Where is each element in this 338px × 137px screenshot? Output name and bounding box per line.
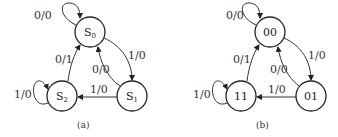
label-00-self: 0/0 [226,9,244,22]
label-s1-s2: 1/0 [90,83,108,96]
svg-text:00: 00 [263,26,277,39]
edge-s2-self [34,81,48,104]
label-s1-s0: 0/0 [92,63,110,76]
label-11-00: 0/1 [233,53,251,66]
state-s0: S0 [75,17,105,47]
caption-a: (a) [77,120,89,130]
state-11: 11 [226,81,256,111]
label-11-self: 1/0 [193,88,211,101]
diagram-b: 0/0 1/0 0/0 1/0 0/1 1/0 00 01 11 (b) [193,3,326,130]
edge-s0-self [62,3,80,25]
svg-text:01: 01 [304,90,318,103]
edge-11-self [213,81,227,104]
state-00: 00 [255,17,285,47]
state-01: 01 [296,81,326,111]
diagram-a: 0/0 1/0 0/0 1/0 0/1 1/0 S0 S1 S2 (a) [14,3,147,130]
svg-text:11: 11 [234,90,248,103]
label-s2-s0: 0/1 [55,53,73,66]
label-00-01: 1/0 [308,49,326,62]
label-01-00: 0/0 [270,63,288,76]
caption-b: (b) [256,120,269,130]
state-s2: S2 [47,81,77,111]
label-s0-s1: 1/0 [128,49,146,62]
label-s2-self: 1/0 [14,88,32,101]
edge-00-self [242,3,260,25]
state-s1: S1 [117,81,147,111]
label-s0-self: 0/0 [34,9,52,22]
state-diagrams-figure: 0/0 1/0 0/0 1/0 0/1 1/0 S0 S1 S2 (a) [0,0,338,137]
label-01-11: 1/0 [268,83,286,96]
